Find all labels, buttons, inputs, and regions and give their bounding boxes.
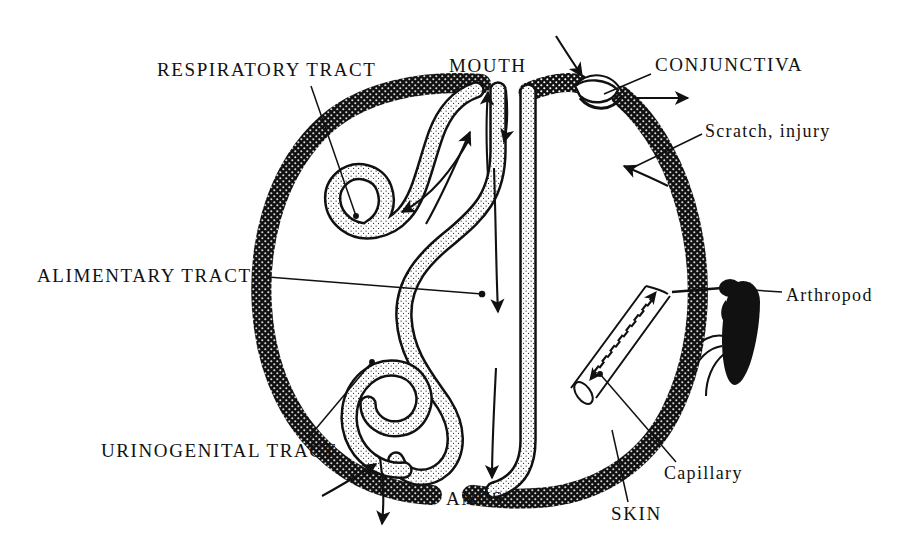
arrow-capillary-inward [594, 292, 656, 372]
capillary-structure [570, 286, 670, 407]
label-arthropod: Arthropod [786, 286, 873, 304]
skin-boundary [261, 82, 697, 498]
arrow-mouth-outward [487, 92, 489, 176]
label-skin: SKIN [611, 504, 662, 523]
label-anus: ANUS [446, 489, 504, 508]
arrow-conjunctiva-inward [556, 36, 582, 76]
label-capillary: Capillary [664, 464, 743, 482]
label-mouth: MOUTH [449, 56, 527, 75]
label-respiratory-tract: RESPIRATORY TRACT [157, 60, 377, 79]
figure-canvas: RESPIRATORY TRACT MOUTH CONJUNCTIVA Scra… [0, 0, 912, 550]
label-alimentary-tract: ALIMENTARY TRACT [37, 266, 252, 285]
arrow-capillary-outward [590, 300, 652, 380]
urinogenital-tract [349, 368, 424, 470]
conjunctiva-structure [575, 75, 622, 108]
label-conjunctiva: CONJUNCTIVA [655, 55, 803, 74]
arrow-anus-outward [492, 368, 496, 478]
leader-alimentary [268, 277, 482, 294]
label-scratch-injury: Scratch, injury [705, 122, 830, 140]
label-urinogenital-tract: URINOGENITAL TRACT [101, 441, 337, 460]
